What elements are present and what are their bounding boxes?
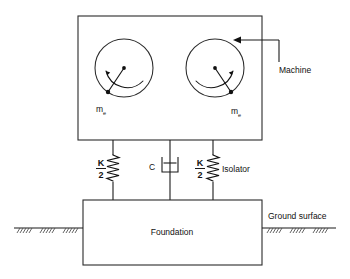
ground-right-hatching — [267, 228, 328, 233]
damper-label: C — [149, 162, 155, 172]
rotor-right-mass-subscript: e — [238, 112, 241, 118]
vibration-isolation-diagram: m e m e Machine — [0, 0, 350, 279]
rotor-left-mass-dot — [106, 90, 110, 94]
ground-right — [262, 228, 336, 233]
machine-label: Machine — [279, 65, 311, 75]
rotor-right-mass-dot — [229, 90, 233, 94]
spring-right-denominator: 2 — [197, 170, 202, 180]
machine-box — [78, 16, 262, 140]
foundation-label: Foundation — [151, 227, 194, 237]
spring-right — [207, 155, 219, 181]
rotor-left-mass-subscript: e — [103, 110, 106, 116]
spring-left-denominator: 2 — [98, 170, 103, 180]
ground-left — [14, 228, 83, 233]
ground-left-hatching — [17, 228, 78, 233]
spring-left-numerator: K — [98, 158, 105, 168]
spring-right-coil — [207, 155, 219, 181]
spring-left — [107, 155, 119, 181]
spring-left-coil — [107, 155, 119, 181]
diagram-canvas: m e m e Machine — [0, 0, 350, 279]
spring-right-numerator: K — [197, 158, 204, 168]
ground-surface-label: Ground surface — [268, 211, 327, 221]
isolator-label: Isolator — [222, 164, 250, 174]
